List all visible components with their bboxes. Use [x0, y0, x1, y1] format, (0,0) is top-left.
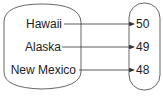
domain-item-hawaii: Hawaii: [26, 17, 62, 31]
range-item-50: 50: [136, 17, 149, 31]
range-item-49: 49: [136, 40, 149, 54]
domain-item-alaska: Alaska: [25, 40, 61, 54]
domain-item-new-mexico: New Mexico: [11, 63, 76, 77]
range-item-48: 48: [136, 63, 149, 77]
